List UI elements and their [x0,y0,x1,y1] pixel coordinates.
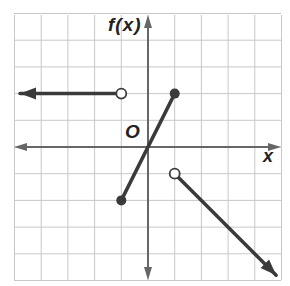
x-axis-arrow-left-icon [14,143,27,151]
open-circle-endpoint [170,169,180,179]
piece-3 [170,169,276,275]
origin-label: O [125,121,140,143]
closed-circle-endpoint [116,195,126,205]
open-circle-endpoint [116,89,126,99]
curve-arrow-icon [20,88,36,100]
x-axis-label: x [263,146,273,167]
y-axis-label: f(x) [108,14,142,36]
closed-circle-endpoint [170,89,180,99]
y-axis-arrow-up-icon [144,15,152,28]
y-axis-arrow-down-icon [144,267,152,280]
curve-line [175,174,276,275]
coordinate-graph [0,0,290,286]
